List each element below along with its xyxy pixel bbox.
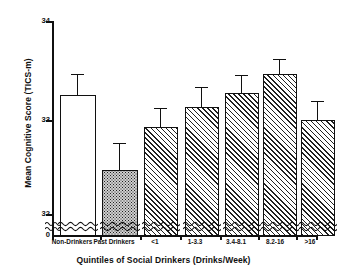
error-bar-cap-quintile-lt1: [154, 108, 167, 109]
error-bar-cap-quintile-1-3-3: [195, 87, 208, 88]
y-tick-label-0: 0: [10, 230, 50, 239]
bar-break-icon-7: [299, 221, 337, 232]
plot-area: [52, 0, 317, 236]
bar-quintile-3-4-8-1[interactable]: [225, 93, 259, 236]
error-bar-cap-quintile-8-2-16: [273, 59, 286, 60]
x-label-quintile-3-4-8-1: 3.4-8.1: [215, 238, 257, 245]
error-bar-stem-past-drinkers: [119, 143, 120, 170]
error-bar-stem-quintile-3-4-8-1: [241, 75, 242, 93]
x-axis-title: Quintiles of Social Drinkers (Drinks/Wee…: [0, 255, 327, 265]
error-bar-cap-non-drinkers: [71, 74, 84, 75]
bar-quintile-lt1[interactable]: [144, 127, 178, 236]
x-label-quintile-gt16: >16: [292, 238, 328, 245]
y-tick-label-33: 33: [10, 115, 50, 124]
bar-break-icon-4: [183, 221, 221, 232]
y-tick-label-34: 34: [10, 16, 50, 25]
bar-break-icon-2: [100, 221, 140, 232]
x-label-quintile-8-2-16: 8.2-16: [254, 238, 296, 245]
error-bar-cap-past-drinkers: [113, 143, 126, 144]
bar-break-icon-3: [142, 221, 180, 232]
y-tick-label-32: 32: [10, 209, 50, 218]
error-bar-cap-quintile-3-4-8-1: [235, 75, 248, 76]
bar-break-icon-6: [261, 221, 299, 232]
error-bar-stem-quintile-gt16: [317, 101, 318, 120]
error-bar-stem-quintile-lt1: [160, 108, 161, 127]
x-label-quintile-1-3-3: 1-3.3: [175, 238, 215, 245]
bar-break-icon-1: [58, 221, 98, 232]
x-label-quintile-lt1: <1: [135, 238, 175, 245]
error-bar-cap-quintile-gt16: [311, 101, 324, 102]
bar-quintile-gt16[interactable]: [301, 120, 335, 236]
error-bar-stem-non-drinkers: [77, 74, 78, 96]
bar-non-drinkers[interactable]: [60, 95, 96, 236]
error-bar-stem-quintile-8-2-16: [279, 59, 280, 75]
bar-quintile-1-3-3[interactable]: [185, 107, 219, 236]
error-bar-stem-quintile-1-3-3: [201, 87, 202, 107]
bar-break-icon-5: [223, 221, 261, 232]
x-label-past-drinkers: Past Drinkers: [88, 238, 140, 245]
bar-quintile-8-2-16[interactable]: [263, 74, 297, 236]
